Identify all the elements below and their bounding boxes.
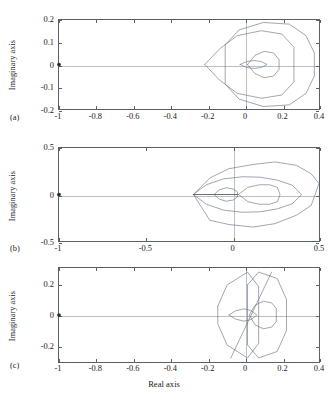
panel-a-xtick-1: -0.8 <box>80 112 110 121</box>
panel-c: Imaginary axis (c) 0.2 0 -0.2 <box>0 263 328 405</box>
panel-b-plot-area <box>58 147 320 242</box>
curve-inner-circle <box>249 301 276 329</box>
panel-b-xtick-0: -1 <box>43 244 73 253</box>
panel-b-ytick-0: 0.5 <box>28 143 54 152</box>
panel-c-y-axis-label: Imaginary axis <box>4 273 20 359</box>
panel-c-xtick-mark-t7 <box>320 268 321 271</box>
panel-c-xtick-0: -1 <box>43 364 73 373</box>
critical-point-marker <box>57 193 61 197</box>
curve-right-hexagon <box>248 272 287 358</box>
panel-a-y-axis-label: Imaginary axis <box>4 24 20 106</box>
panel-a-xtick-3: -0.4 <box>155 112 185 121</box>
critical-point-marker <box>57 63 61 67</box>
panel-c-curves <box>59 268 319 362</box>
panel-a-xtick-2: -0.6 <box>118 112 148 121</box>
panel-a-xtick-mark-t7 <box>320 20 321 23</box>
panel-c-xtick-1: -0.8 <box>80 364 110 373</box>
panel-a-xtick-mark-7 <box>320 106 321 109</box>
curve-inner-lens <box>240 61 267 69</box>
critical-point-marker <box>57 313 61 317</box>
panel-b-xtick-mark-3 <box>320 238 321 241</box>
panel-c-xtick-5: 0 <box>230 364 260 373</box>
panel-c-plot-area <box>58 267 320 363</box>
nyquist-figure: Imaginary axis (a) 0.2 0.1 0 -0.1 -0.2 <box>0 0 328 405</box>
panel-c-xtick-3: -0.4 <box>155 364 185 373</box>
panel-a-ytick-3: -0.1 <box>28 83 54 92</box>
panel-a-curves <box>59 20 319 109</box>
panel-b-curves <box>59 148 319 241</box>
panel-a-plot-area <box>58 19 320 110</box>
panel-c-ytick-1: 0 <box>28 311 54 320</box>
curve-inner-lens-left <box>229 309 257 321</box>
panel-a-xtick-7: 0.4 <box>304 112 328 121</box>
curve-middle-contour <box>205 31 294 99</box>
panel-b-xtick-2: 0 <box>218 244 248 253</box>
panel-b-ytick-1: 0 <box>28 190 54 199</box>
panel-a-xtick-0: -1 <box>43 112 73 121</box>
panel-a-ytick-2: 0 <box>28 60 54 69</box>
curve-inner-oval-right <box>236 185 280 204</box>
panel-a-xtick-6: 0.2 <box>268 112 298 121</box>
panel-a-xtick-5: 0 <box>230 112 260 121</box>
panel-a-xtick-4: -0.2 <box>193 112 223 121</box>
curve-inner-contour <box>248 51 280 77</box>
panel-b: Imaginary axis (b) 0.5 0 -0.5 -1 -0. <box>0 133 328 263</box>
panel-a-ytick-0: 0.2 <box>28 15 54 24</box>
panel-c-xtick-2: -0.6 <box>118 364 148 373</box>
panel-b-y-axis-label: Imaginary axis <box>4 153 20 239</box>
panel-c-xtick-mark-7 <box>320 359 321 362</box>
panel-b-xtick-1: -0.5 <box>130 244 160 253</box>
panel-a: Imaginary axis (a) 0.2 0.1 0 -0.1 -0.2 <box>0 0 328 133</box>
panel-a-tag: (a) <box>10 113 19 122</box>
panel-c-x-axis-label: Real axis <box>0 379 328 389</box>
panel-c-ytick-2: -0.2 <box>28 342 54 351</box>
panel-c-tag: (c) <box>10 361 19 370</box>
panel-b-xtick-3: 0.5 <box>304 244 328 253</box>
curve-diagonal-chord <box>231 272 272 358</box>
curve-left-hexagon <box>218 272 259 358</box>
panel-c-ytick-0: 0.2 <box>28 279 54 288</box>
panel-c-xtick-4: -0.2 <box>193 364 223 373</box>
panel-c-xtick-6: 0.2 <box>268 364 298 373</box>
panel-b-tag: (b) <box>10 244 20 253</box>
panel-a-ytick-1: 0.1 <box>28 37 54 46</box>
panel-c-xtick-7: 0.4 <box>304 364 328 373</box>
panel-b-xtick-mark-t3 <box>320 148 321 151</box>
